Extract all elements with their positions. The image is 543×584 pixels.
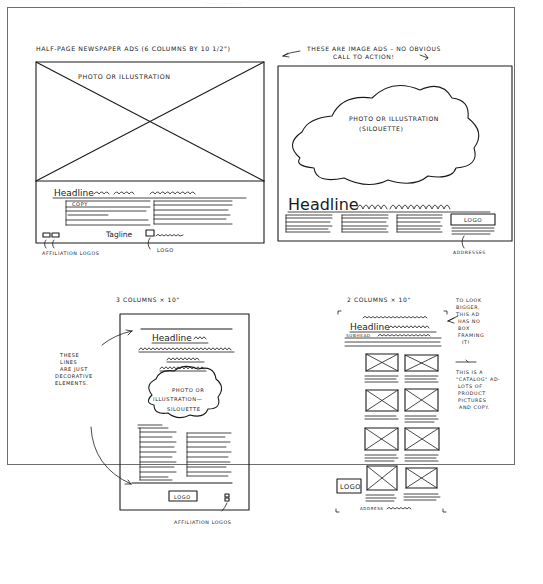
ad4-subhead: SUBHEAD	[346, 333, 371, 338]
ad3-copy-col-left	[138, 425, 176, 480]
ad4-note-arrow-icon	[448, 316, 458, 323]
ad4-product-7	[366, 466, 397, 501]
ad1-copy-right	[154, 201, 232, 224]
top-caption: HALF-PAGE NEWSPAPER ADS (6 COLUMNS BY 10…	[36, 45, 231, 52]
ad4-product-4	[405, 389, 438, 422]
ad1-callout-logo: LOGO	[157, 247, 174, 253]
svg-text:THIS IS A: THIS IS A	[455, 370, 483, 375]
ad2-logo-label: LOGO	[464, 217, 482, 223]
ad4-headline: Headline	[350, 322, 390, 332]
ad3-side-note: THESE LINES ARE JUST DECORATIVE ELEMENTS…	[55, 352, 93, 386]
ad2-photo-label-2: (SILOUETTE)	[359, 125, 404, 132]
ad4-product-6	[405, 428, 439, 461]
svg-text:"CATALOG" AD-: "CATALOG" AD-	[456, 377, 501, 382]
faint-header-text: · · · · · · · · · · · ·	[205, 0, 242, 6]
ad3-logo-label: LOGO	[174, 494, 191, 500]
ad2-copy-col-2	[342, 215, 388, 232]
svg-text:PICTURES: PICTURES	[458, 398, 486, 403]
svg-text:BOX: BOX	[458, 326, 470, 331]
ad3-copy-col-right	[187, 433, 231, 476]
ad3-affiliation-logo-1	[225, 494, 229, 497]
ad4-product-1	[365, 354, 398, 382]
ad3-photo-label-3: SILOUETTE	[167, 406, 201, 412]
svg-text:IT!: IT!	[462, 340, 470, 345]
ad3-callout-affiliation: AFFILIATION LOGOS	[174, 520, 231, 525]
arrow-icon	[420, 54, 428, 60]
ad1-headline: Headline	[54, 188, 94, 198]
svg-text:ELEMENTS.: ELEMENTS.	[55, 380, 89, 386]
svg-text:LINES: LINES	[60, 359, 77, 365]
ad4-address-scribble	[387, 508, 411, 510]
ad1-tagline-scribble	[156, 235, 183, 237]
ad1-full-bleed-photo: PHOTO OR ILLUSTRATION Headline COPY Tagl…	[36, 62, 264, 243]
ad1-photo-label: PHOTO OR ILLUSTRATION	[78, 73, 171, 80]
ad3-photo-label-1: PHOTO OR	[172, 387, 205, 393]
ad1-callout-affiliation: AFFILIATION LOGOS	[42, 251, 99, 256]
svg-text:FRAMING: FRAMING	[458, 333, 484, 338]
ad3-affiliation-logo-2	[225, 498, 229, 501]
ad2-headline-scribble	[357, 205, 450, 209]
ad2-copy-col-3	[397, 215, 442, 232]
ad1-headline-scribble	[94, 192, 195, 194]
ad4-product-5	[365, 428, 398, 461]
ad3-photo-label-2: ILLUSTRATION—	[153, 396, 203, 402]
ad1-affiliation-arrow-icon	[45, 240, 55, 248]
ad1-tagline: Tagline	[105, 230, 133, 239]
svg-text:BIGGER,: BIGGER,	[456, 305, 480, 310]
ad2-callout-address: ADDRESSES	[453, 250, 486, 255]
ad3-headline-scribble-2	[139, 348, 231, 350]
top-note-line1: THESE ARE IMAGE ADS – NO OBVIOUS	[306, 45, 441, 52]
sketch-canvas: · · · · · · · · · · · · HALF-PAGE NEWSPA…	[0, 0, 543, 584]
ad2-headline: Headline	[288, 195, 359, 214]
ad4-product-2	[405, 355, 438, 382]
ad4-note-divider	[456, 360, 476, 362]
ad3-note-arrow-bottom-icon	[91, 427, 131, 484]
top-note-line2: CALL TO ACTION!	[333, 53, 394, 60]
ad2-copy-col-1	[286, 215, 332, 232]
ad4-note-catalog: THIS IS A "CATALOG" AD- LOTS OF PRODUCT …	[455, 370, 501, 410]
ad2-address-lines	[452, 228, 494, 234]
ad4-note-framing: TO LOOK BIGGER, THIS AD HAS NO BOX FRAMI…	[455, 298, 484, 345]
ad3-headline: Headline	[152, 333, 192, 343]
ad4-size-label: 2 COLUMNS × 10"	[347, 296, 411, 303]
svg-text:HAS NO: HAS NO	[458, 319, 480, 324]
ad4-logo-label: LOGO	[340, 483, 361, 491]
ad4-product-3	[365, 390, 398, 419]
ad1-copy-label: COPY	[72, 201, 88, 207]
arrow-icon	[283, 51, 300, 56]
svg-text:DECORATIVE: DECORATIVE	[55, 373, 93, 379]
svg-text:ARE JUST: ARE JUST	[60, 366, 88, 372]
ad3-note-arrow-top-icon	[102, 330, 132, 345]
svg-text:THESE: THESE	[59, 352, 79, 358]
ad4-catalog-ad: Headline SUBHEAD	[336, 311, 447, 512]
ad2-silhouette-cloud	[292, 86, 478, 185]
ad4-product-8	[404, 468, 440, 500]
svg-text:TO LOOK: TO LOOK	[455, 298, 482, 303]
ad1-affiliation-logo-1	[43, 233, 50, 237]
ad4-address-label: ADDRESS	[360, 506, 383, 511]
ad1-affiliation-logo-2	[52, 233, 59, 237]
ad2-image-ad: PHOTO OR ILLUSTRATION (SILOUETTE) Headli…	[278, 66, 512, 241]
svg-text:LOTS OF: LOTS OF	[458, 384, 483, 389]
svg-text:THIS AD: THIS AD	[455, 312, 480, 317]
ad1-logo-box	[146, 230, 154, 236]
ad2-address-arrow-icon	[462, 236, 464, 248]
ad3-vertical-ad: Headline PHOTO OR ILLUSTRATION— SILOUETT…	[120, 314, 249, 510]
ad2-photo-label-1: PHOTO OR ILLUSTRATION	[349, 115, 439, 122]
ad3-size-label: 3 COLUMNS × 10"	[116, 296, 180, 303]
svg-text:AND COPY.: AND COPY.	[459, 405, 490, 410]
svg-text:PRODUCT: PRODUCT	[458, 391, 486, 396]
